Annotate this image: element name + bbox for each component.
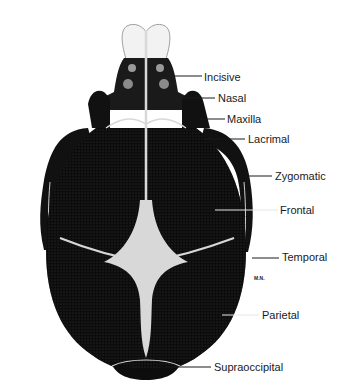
label-temporal: Temporal (282, 251, 327, 263)
label-maxilla: Maxilla (227, 113, 261, 125)
label-lacrimal: Lacrimal (248, 133, 290, 145)
skull-illustration (0, 0, 348, 387)
label-zygomatic: Zygomatic (275, 170, 326, 182)
label-incisive: Incisive (204, 71, 241, 83)
label-nasal: Nasal (218, 92, 246, 104)
label-supraoccipital: Supraoccipital (214, 361, 283, 373)
label-frontal: Frontal (280, 204, 314, 216)
label-parietal: Parietal (262, 309, 299, 321)
artist-signature: M.N. (254, 275, 265, 281)
skull-diagram: Incisive Nasal Maxilla Lacrimal Zygomati… (0, 0, 348, 387)
